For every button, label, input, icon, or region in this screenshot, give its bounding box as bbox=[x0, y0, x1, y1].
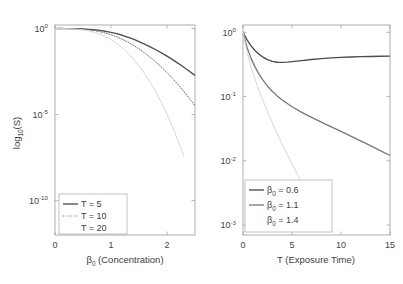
right-plot-svg: 10010-110-210-3 051015 T (Exposure Time)… bbox=[205, 0, 403, 284]
left-legend-label[interactable]: T = 10 bbox=[81, 211, 107, 221]
left-legend[interactable]: T = 5T = 10T = 20 bbox=[59, 194, 127, 234]
left-plot-panel: 10010-510-10 012 log10(S) β0 (Concentrat… bbox=[0, 0, 205, 284]
left-x-axis-label-rest: (Concentration) bbox=[95, 254, 163, 265]
right-y-tick-label: 10-1 bbox=[220, 90, 236, 101]
left-y-tick-label: 100 bbox=[35, 22, 49, 33]
right-curve bbox=[243, 32, 390, 62]
right-legend-label[interactable]: β0 = 0.6 bbox=[267, 185, 299, 197]
left-x-tick-labels: 012 bbox=[52, 240, 169, 250]
right-x-tick-label: 0 bbox=[240, 240, 245, 250]
left-y-axis-label: log10(S) bbox=[11, 117, 24, 149]
left-x-tick-label: 2 bbox=[164, 240, 169, 250]
right-legend[interactable]: β0 = 0.6β0 = 1.1β0 = 1.4 bbox=[245, 180, 332, 232]
left-legend-label[interactable]: T = 5 bbox=[81, 199, 102, 209]
left-y-axis-label-base: log bbox=[11, 137, 22, 150]
right-x-tick-label: 15 bbox=[385, 240, 395, 250]
right-y-tick-label: 10-2 bbox=[220, 155, 236, 166]
right-x-tick-label: 5 bbox=[289, 240, 294, 250]
left-y-axis-label-rest: (S) bbox=[11, 117, 22, 130]
left-x-axis-label: β0 (Concentration) bbox=[86, 254, 163, 267]
left-x-tick-label: 1 bbox=[108, 240, 113, 250]
left-y-tick-labels: 10010-510-10 bbox=[29, 22, 49, 205]
right-y-tick-label: 10-3 bbox=[220, 219, 236, 230]
right-legend-label[interactable]: β0 = 1.4 bbox=[267, 215, 299, 227]
left-legend-label[interactable]: T = 20 bbox=[81, 223, 107, 233]
left-y-tick-label: 10-5 bbox=[32, 108, 48, 119]
right-curve bbox=[243, 32, 390, 155]
left-curve bbox=[55, 29, 195, 106]
right-plot-panel: 10010-110-210-3 051015 T (Exposure Time)… bbox=[205, 0, 403, 284]
figure-container: 10010-510-10 012 log10(S) β0 (Concentrat… bbox=[0, 0, 403, 284]
right-x-axis-label: T (Exposure Time) bbox=[277, 254, 355, 265]
right-x-tick-labels: 051015 bbox=[240, 240, 395, 250]
right-legend-label[interactable]: β0 = 1.1 bbox=[267, 200, 299, 212]
left-plot-svg: 10010-510-10 012 log10(S) β0 (Concentrat… bbox=[0, 0, 205, 284]
left-x-tick-label: 0 bbox=[52, 240, 57, 250]
left-curve bbox=[55, 29, 184, 156]
right-y-tick-label: 100 bbox=[223, 26, 237, 37]
left-curves-group bbox=[55, 29, 195, 156]
left-y-tick-label: 10-10 bbox=[29, 194, 49, 205]
right-y-tick-labels: 10010-110-210-3 bbox=[220, 26, 236, 230]
right-x-tick-label: 10 bbox=[336, 240, 346, 250]
left-curve bbox=[55, 29, 195, 76]
